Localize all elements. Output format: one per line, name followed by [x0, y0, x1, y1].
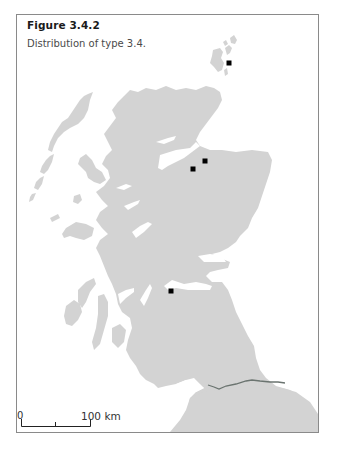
- isle-of-skye: [78, 154, 106, 184]
- orkney-islands: [210, 35, 237, 76]
- isle-of-jura: [78, 278, 96, 308]
- site-marker-central-belt[interactable]: [169, 289, 174, 294]
- isle-of-arran: [112, 324, 126, 348]
- outer-hebrides: [29, 92, 93, 202]
- map-canvas: [0, 0, 337, 453]
- site-marker-orkney[interactable]: [227, 61, 232, 66]
- isle-of-coll: [50, 214, 60, 222]
- scale-label-start: 0: [17, 410, 23, 421]
- isle-of-rum: [73, 194, 82, 204]
- scale-label-end: 100 km: [81, 410, 121, 422]
- figure-title: Figure 3.4.2: [27, 19, 100, 31]
- site-marker-moray-west[interactable]: [191, 167, 196, 172]
- isle-of-mull: [62, 222, 94, 240]
- figure-caption: Distribution of type 3.4.: [27, 38, 146, 49]
- kintyre: [92, 294, 108, 350]
- site-marker-moray-east[interactable]: [203, 159, 208, 164]
